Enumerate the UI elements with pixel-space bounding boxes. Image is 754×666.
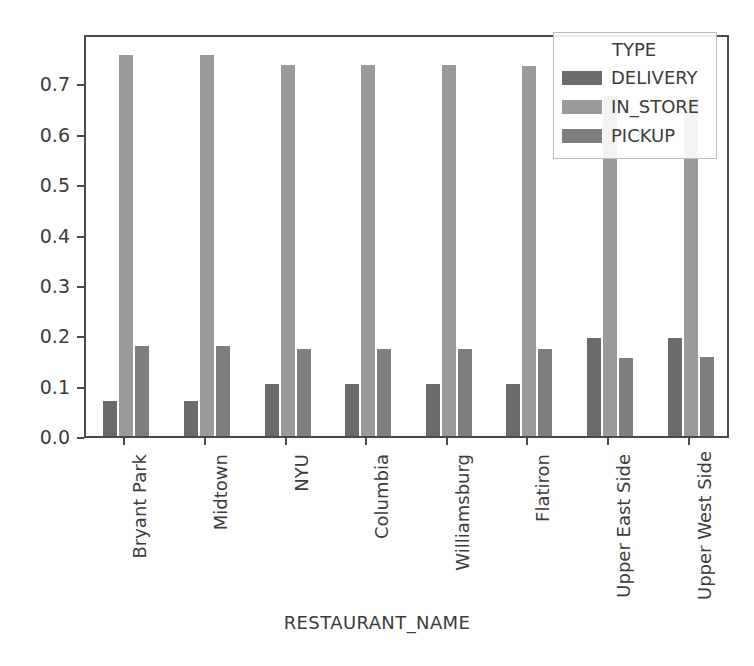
- bar-pickup-5: [538, 349, 552, 436]
- x-axis-title: RESTAURANT_NAME: [0, 612, 754, 633]
- bar-chart-figure: 0.00.10.20.30.40.50.60.7 Bryant ParkMidt…: [0, 0, 754, 666]
- x-tick-label-3: Columbia: [373, 454, 391, 600]
- bar-delivery-4: [426, 384, 440, 436]
- y-tick-mark: [77, 437, 84, 439]
- bar-in-store-0: [119, 55, 133, 436]
- bar-delivery-1: [184, 401, 198, 436]
- bar-pickup-6: [619, 358, 633, 436]
- y-tick-label: 0.5: [2, 176, 70, 195]
- y-tick-mark: [77, 387, 84, 389]
- bar-in-store-5: [522, 66, 536, 436]
- x-tick-label-5: Flatiron: [534, 454, 552, 600]
- y-tick-label: 0.7: [2, 75, 70, 94]
- y-tick-mark: [77, 286, 84, 288]
- legend-title: TYPE: [562, 39, 708, 60]
- legend: TYPE DELIVERY IN_STORE PICKUP: [553, 32, 717, 159]
- bar-pickup-0: [135, 346, 149, 436]
- y-tick-mark: [77, 336, 84, 338]
- legend-label-delivery: DELIVERY: [611, 68, 698, 88]
- legend-label-pickup: PICKUP: [611, 126, 675, 146]
- y-tick-label: 0.0: [2, 428, 70, 447]
- bar-delivery-7: [668, 338, 682, 436]
- x-tick-mark: [204, 438, 206, 445]
- x-tick-label-1: Midtown: [212, 454, 230, 600]
- bar-in-store-2: [281, 65, 295, 436]
- x-tick-mark: [688, 438, 690, 445]
- bar-delivery-6: [587, 338, 601, 436]
- y-tick-label: 0.3: [2, 277, 70, 296]
- legend-item-pickup[interactable]: PICKUP: [562, 121, 708, 150]
- x-tick-mark: [365, 438, 367, 445]
- legend-label-in-store: IN_STORE: [611, 97, 699, 117]
- legend-swatch-delivery: [562, 71, 602, 85]
- x-tick-label-4: Williamsburg: [454, 454, 472, 600]
- x-tick-mark: [123, 438, 125, 445]
- y-tick-label: 0.1: [2, 378, 70, 397]
- bar-pickup-1: [216, 346, 230, 436]
- x-tick-mark: [446, 438, 448, 445]
- y-tick-label: 0.6: [2, 126, 70, 145]
- x-tick-mark: [607, 438, 609, 445]
- bar-in-store-1: [200, 55, 214, 436]
- bar-delivery-0: [103, 401, 117, 436]
- x-tick-label-2: NYU: [293, 454, 311, 600]
- bar-delivery-2: [265, 384, 279, 436]
- bar-pickup-2: [297, 349, 311, 436]
- y-tick-mark: [77, 135, 84, 137]
- legend-item-delivery[interactable]: DELIVERY: [562, 63, 708, 92]
- legend-item-in-store[interactable]: IN_STORE: [562, 92, 708, 121]
- bar-in-store-4: [442, 65, 456, 436]
- legend-swatch-in-store: [562, 100, 602, 114]
- bar-pickup-7: [700, 357, 714, 436]
- y-tick-label: 0.4: [2, 227, 70, 246]
- y-tick-label: 0.2: [2, 327, 70, 346]
- x-tick-label-7: Upper West Side: [696, 454, 714, 600]
- y-tick-mark: [77, 185, 84, 187]
- bar-in-store-3: [361, 65, 375, 436]
- bar-pickup-3: [377, 349, 391, 436]
- y-tick-mark: [77, 84, 84, 86]
- x-tick-label-6: Upper East Side: [615, 454, 633, 600]
- y-tick-mark: [77, 236, 84, 238]
- x-tick-mark: [285, 438, 287, 445]
- x-tick-mark: [526, 438, 528, 445]
- legend-swatch-pickup: [562, 129, 602, 143]
- bar-pickup-4: [458, 349, 472, 436]
- x-tick-label-0: Bryant Park: [131, 454, 149, 600]
- bar-delivery-5: [506, 384, 520, 436]
- bar-delivery-3: [345, 384, 359, 436]
